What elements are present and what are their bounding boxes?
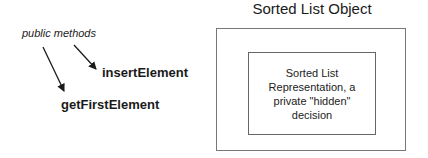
method-get-first-element: getFirstElement	[61, 97, 159, 112]
method-insert-element: insertElement	[102, 65, 188, 80]
arrow-to-insertelement	[74, 45, 96, 69]
representation-line: Sorted List	[269, 66, 356, 80]
representation-box: Sorted List Representation, a private "h…	[248, 52, 376, 135]
representation-text: Sorted List Representation, a private "h…	[269, 66, 356, 122]
arrow-to-getfirstelement	[43, 47, 64, 91]
public-methods-label: public methods	[22, 27, 96, 39]
diagram-title: Sorted List Object	[216, 0, 408, 17]
representation-line: decision	[269, 108, 356, 122]
representation-line: private "hidden"	[269, 94, 356, 108]
representation-line: Representation, a	[269, 80, 356, 94]
